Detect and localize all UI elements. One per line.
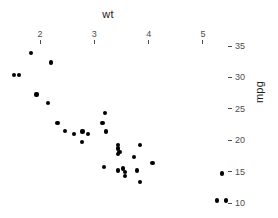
data-point — [55, 121, 59, 125]
data-point — [80, 129, 84, 133]
data-point — [150, 161, 154, 165]
data-point — [29, 51, 33, 55]
data-point — [138, 143, 142, 147]
data-point — [224, 198, 228, 202]
data-point — [86, 132, 90, 136]
data-point — [103, 111, 107, 115]
data-point — [138, 180, 142, 184]
data-point — [116, 168, 120, 172]
data-point — [132, 155, 136, 159]
data-point — [80, 140, 84, 144]
data-point — [49, 60, 53, 64]
data-point — [123, 170, 127, 174]
data-point — [72, 132, 76, 136]
data-point — [63, 129, 67, 133]
data-point — [17, 73, 21, 77]
data-point — [135, 168, 139, 172]
scatter-plot: wt mpg 2345 353025201510 — [0, 0, 278, 218]
data-point — [116, 152, 120, 156]
data-point — [100, 121, 104, 125]
data-point — [46, 101, 50, 105]
data-point — [220, 171, 224, 175]
data-point — [34, 92, 38, 96]
data-point — [102, 165, 106, 169]
data-points-layer — [0, 0, 278, 218]
data-point — [104, 129, 108, 133]
data-point — [123, 174, 127, 178]
data-point — [12, 73, 16, 77]
data-point — [215, 198, 219, 202]
